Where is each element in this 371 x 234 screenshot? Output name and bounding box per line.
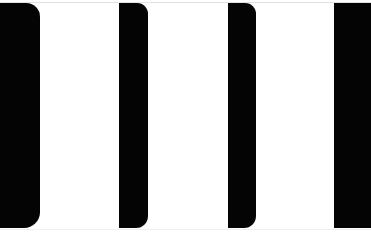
top-divider-rule: [0, 2, 371, 3]
bar-1[interactable]: [0, 3, 40, 228]
zoomed-bar-canvas: [0, 0, 371, 234]
bottom-divider-rule: [0, 229, 371, 230]
bar-3[interactable]: [228, 3, 256, 228]
bar-2[interactable]: [119, 3, 148, 228]
bar-4[interactable]: [334, 3, 371, 228]
